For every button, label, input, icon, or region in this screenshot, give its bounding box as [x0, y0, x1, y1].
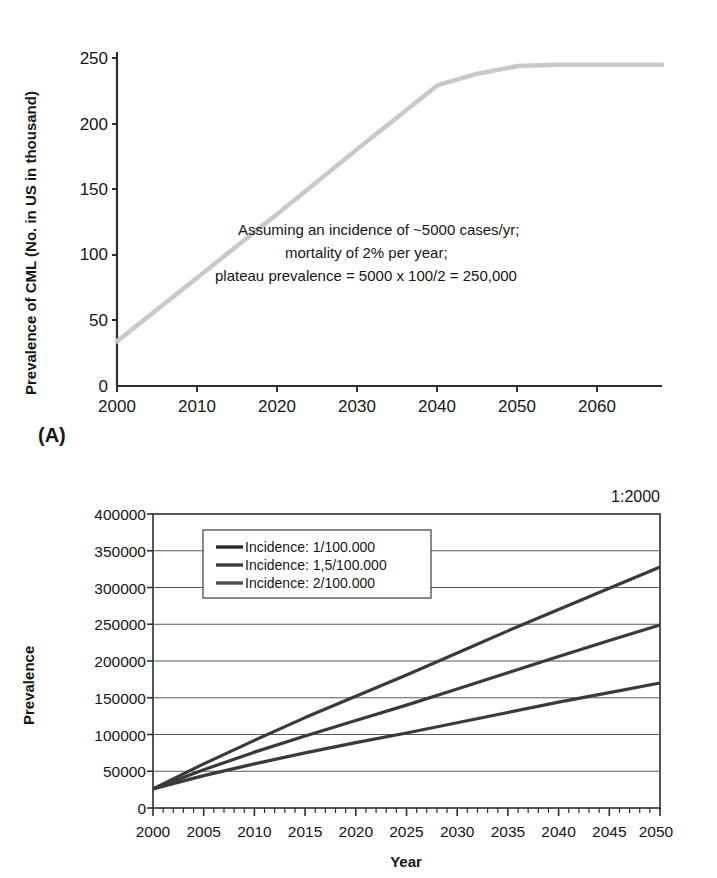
chart-b-ytick-400000: 400000 — [94, 506, 146, 523]
chart-b-ytick-150000: 150000 — [94, 690, 146, 707]
chart-panel-b: 1:2000 400000 350000 300000 250000 20000… — [0, 470, 717, 878]
chart-a-ytick-250: 250 — [80, 49, 108, 68]
chart-b-corner-label: 1:2000 — [611, 488, 660, 505]
chart-b-ytick-350000: 350000 — [94, 543, 146, 560]
chart-b-legend-label-1: Incidence: 1/100.000 — [245, 539, 375, 555]
chart-b-xtick-2040: 2040 — [541, 823, 576, 840]
chart-b-ytick-250000: 250000 — [94, 616, 146, 633]
chart-a-ytick-50: 50 — [89, 311, 108, 330]
chart-a-annotation-line-1: Assuming an incidence of ~5000 cases/yr; — [238, 221, 519, 238]
chart-b-xtick-2005: 2005 — [186, 823, 220, 840]
chart-b-legend-label-3: Incidence: 2/100.000 — [245, 575, 375, 591]
figure-container: Prevalence of CML (No. in US in thousand… — [0, 0, 717, 878]
panel-a-letter: (A) — [38, 424, 66, 447]
chart-a-xtick-2000: 2000 — [98, 397, 136, 416]
chart-a-xtick-2050: 2050 — [498, 397, 536, 416]
chart-b-xtick-2050: 2050 — [639, 823, 674, 840]
chart-a-series-line — [117, 65, 662, 342]
chart-b-x-axis-title: Year — [390, 853, 422, 870]
chart-b-ytick-50000: 50000 — [103, 763, 146, 780]
chart-b-xtick-2000: 2000 — [136, 823, 171, 840]
chart-b-xtick-2010: 2010 — [237, 823, 272, 840]
chart-a-ytick-150: 150 — [80, 180, 108, 199]
chart-b-xtick-2020: 2020 — [339, 823, 374, 840]
chart-b-xtick-major-group — [153, 808, 660, 816]
chart-a-ytick-100: 100 — [80, 245, 108, 264]
chart-a-y-axis-title: Prevalence of CML (No. in US in thousand… — [22, 91, 39, 395]
chart-b-legend-label-2: Incidence: 1,5/100.000 — [245, 557, 387, 573]
chart-b-series-line-incidence-2 — [153, 567, 660, 789]
chart-b-svg: 1:2000 400000 350000 300000 250000 20000… — [0, 470, 717, 878]
chart-a-svg: Prevalence of CML (No. in US in thousand… — [0, 0, 717, 470]
chart-a-ytick-200: 200 — [80, 115, 108, 134]
chart-b-ytick-300000: 300000 — [94, 580, 146, 597]
chart-b-xtick-2015: 2015 — [288, 823, 322, 840]
chart-panel-a: Prevalence of CML (No. in US in thousand… — [0, 0, 717, 470]
chart-a-ytick-0: 0 — [99, 377, 108, 396]
chart-a-annotation-line-2: mortality of 2% per year; — [285, 244, 448, 261]
chart-b-xtick-2045: 2045 — [592, 823, 626, 840]
chart-a-xtick-2010: 2010 — [178, 397, 216, 416]
chart-a-xtick-2040: 2040 — [418, 397, 456, 416]
chart-a-xtick-2060: 2060 — [578, 397, 616, 416]
chart-b-xtick-2025: 2025 — [389, 823, 423, 840]
chart-b-series-line-incidence-1-5 — [153, 625, 660, 789]
chart-b-xtick-2035: 2035 — [491, 823, 525, 840]
chart-b-legend: Incidence: 1/100.000 Incidence: 1,5/100.… — [203, 530, 431, 598]
chart-a-xtick-2020: 2020 — [258, 397, 296, 416]
chart-b-ytick-0: 0 — [137, 800, 146, 817]
chart-b-y-axis-title: Prevalence — [20, 646, 37, 725]
chart-a-annotation-line-3: plateau prevalence = 5000 x 100/2 = 250,… — [215, 267, 517, 284]
chart-b-ytick-100000: 100000 — [94, 727, 146, 744]
chart-a-xtick-2030: 2030 — [338, 397, 376, 416]
chart-b-series-line-incidence-1 — [153, 683, 660, 789]
chart-b-ytick-200000: 200000 — [94, 653, 146, 670]
chart-b-xtick-2030: 2030 — [440, 823, 475, 840]
